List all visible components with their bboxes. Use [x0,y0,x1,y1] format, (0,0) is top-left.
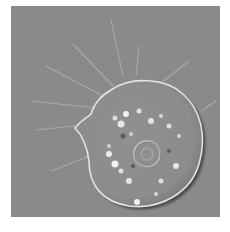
micrograph [11,6,220,217]
cell-illustration [11,6,220,217]
